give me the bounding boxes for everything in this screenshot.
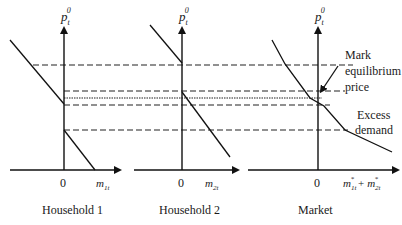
x-axis-label: m2t xyxy=(205,177,219,192)
panel-household-2: pt0 0 m2t Household 2 xyxy=(134,6,236,217)
equilibrium-annotation-line3: price xyxy=(345,80,369,94)
origin-label: 0 xyxy=(60,176,66,190)
excess-demand-line2: demand xyxy=(355,123,393,137)
excess-demand-line1: Excess xyxy=(357,108,391,122)
y-axis-label: pt0 xyxy=(60,6,71,27)
demand-curve-upper xyxy=(150,25,182,63)
y-axis-label: pt0 xyxy=(314,6,325,27)
equilibrium-arrow xyxy=(322,66,338,90)
panel-title: Market xyxy=(298,203,333,217)
panel-market: pt0 0 m1t*+m2t* Market Mark equilibrium … xyxy=(248,6,402,217)
equilibrium-annotation-line2: equilibrium xyxy=(345,64,402,78)
demand-curve-lower xyxy=(182,92,230,157)
panel-title: Household 1 xyxy=(42,203,103,217)
x-axis-label: m1t*+m2t* xyxy=(343,175,382,192)
origin-label: 0 xyxy=(314,176,320,190)
demand-curve-lower xyxy=(64,130,95,170)
origin-label: 0 xyxy=(178,176,184,190)
equilibrium-annotation-line1: Mark xyxy=(345,48,371,62)
y-axis-label: pt0 xyxy=(178,6,189,27)
price-level-lines xyxy=(33,65,353,130)
panel-household-1: pt0 0 m1t Household 1 xyxy=(10,6,118,217)
panel-title: Household 2 xyxy=(159,203,220,217)
economics-diagram: pt0 0 m1t Household 1 pt0 0 m2t Househol… xyxy=(0,0,402,225)
demand-curve-upper xyxy=(10,40,64,104)
x-axis-label: m1t xyxy=(96,177,110,192)
